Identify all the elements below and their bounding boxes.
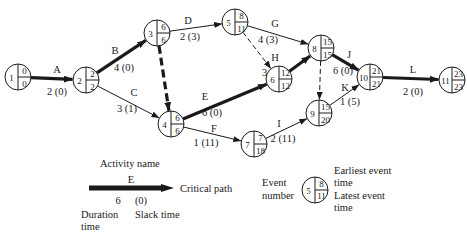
earliest-event-time: 21: [372, 66, 381, 76]
earliest-event-time: 6: [161, 22, 166, 32]
event-number: 1: [9, 73, 14, 83]
earliest-event-time: 12: [281, 68, 290, 78]
earliest-event-time: 2: [90, 69, 95, 79]
activity-duration-slack: 2 (11): [271, 133, 296, 145]
activity-name: F: [211, 123, 217, 134]
legend-critical-path-label: Critical path: [180, 183, 233, 194]
activity-name: L: [410, 64, 416, 75]
activity-h-arrow: [289, 56, 310, 71]
event-number: 3: [148, 29, 153, 39]
activity-duration-slack: 2 (0): [47, 86, 68, 98]
legend: Activity name E Critical path 6 (0) Dura…: [81, 158, 392, 232]
event-node-9: 91520: [306, 100, 332, 126]
event-node-7: 7718: [241, 131, 267, 157]
event-nodes: 1002223664665811612127718815159152010212…: [5, 9, 465, 157]
event-node-5: 5811: [222, 9, 248, 35]
latest-event-time: 6: [175, 126, 180, 136]
legend-earliest-label-2: time: [334, 177, 353, 188]
event-number: 2: [77, 76, 82, 86]
activity-name: H: [271, 52, 279, 63]
legend-sample-event-number: 5: [306, 186, 311, 196]
legend-sample-duration: 6: [115, 195, 120, 206]
event-node-8: 81515: [308, 35, 334, 61]
event-number: 8: [312, 44, 317, 54]
latest-event-time: 12: [281, 81, 290, 91]
event-node-6: 61212: [266, 66, 292, 92]
earliest-event-time: 0: [22, 66, 27, 76]
activity-duration-slack: 6 (0): [202, 107, 223, 119]
event-node-2: 222: [73, 67, 99, 93]
dummy-activity-8-9: [319, 61, 320, 100]
activity-name: D: [184, 15, 192, 26]
activity-name: G: [271, 18, 279, 29]
event-number: 11: [441, 76, 450, 86]
activity-duration-slack: 1 (11): [194, 137, 219, 149]
legend-activity-name-label: Activity name: [100, 158, 160, 169]
legend-earliest-label: Earliest event: [334, 165, 392, 176]
latest-event-time: 2: [90, 82, 95, 92]
activity-a-arrow: [31, 78, 73, 80]
activity-duration-slack: 2 (3): [180, 31, 201, 43]
latest-event-time: 21: [372, 79, 381, 89]
legend-sample-slack: (0): [135, 195, 148, 207]
earliest-event-time: 15: [321, 102, 331, 112]
event-node-10: 102121: [357, 64, 383, 90]
event-number: 10: [359, 73, 369, 83]
activity-name: J: [347, 49, 351, 60]
latest-event-time: 0: [22, 79, 27, 89]
latest-event-time: 11: [237, 24, 246, 34]
latest-event-time: 15: [323, 50, 333, 60]
legend-sample-latest: 11: [317, 191, 326, 201]
event-node-1: 100: [5, 64, 31, 90]
activity-name: I: [277, 118, 281, 129]
latest-event-time: 20: [321, 115, 331, 125]
event-number: 7: [245, 140, 250, 150]
activity-duration-slack: 1 (5): [340, 96, 361, 108]
legend-latest-label-2: time: [334, 202, 353, 213]
earliest-event-time: 15: [323, 37, 333, 47]
latest-event-time: 23: [454, 82, 464, 92]
activity-name: E: [202, 91, 208, 102]
legend-duration-label: Duration: [81, 209, 119, 220]
legend-duration-label-2: time: [81, 221, 100, 232]
activity-duration-slack: 6 (0): [333, 65, 354, 77]
earliest-event-time: 8: [239, 11, 244, 21]
legend-sample-earliest: 8: [319, 179, 324, 189]
activity-name: C: [130, 87, 137, 98]
activity-name: B: [111, 45, 118, 56]
activity-duration-slack: 2 (0): [403, 86, 424, 98]
latest-event-time: 18: [256, 146, 266, 156]
latest-event-time: 6: [161, 35, 166, 45]
legend-event-label: Event: [262, 177, 287, 188]
legend-arrowhead-icon: [161, 184, 174, 192]
dummy-activity-3-4: [159, 46, 169, 111]
activity-name: K: [341, 82, 349, 93]
activity-duration-slack: 4 (3): [258, 34, 279, 46]
earliest-event-time: 7: [258, 133, 263, 143]
event-node-11: 112323: [439, 67, 465, 93]
earliest-event-time: 23: [454, 69, 464, 79]
event-number: 9: [310, 109, 315, 119]
event-number: 5: [226, 18, 231, 28]
event-number: 4: [162, 120, 167, 130]
legend-event-label-2: number: [262, 190, 295, 201]
activity-l-arrow: [383, 77, 439, 79]
activity-name: A: [53, 64, 61, 75]
activity-duration-slack: 4 (0): [114, 62, 135, 74]
event-node-3: 366: [144, 20, 170, 46]
earliest-event-time: 6: [175, 113, 180, 123]
legend-event-node: 5 8 11: [302, 177, 328, 203]
legend-slack-label: Slack time: [135, 209, 180, 220]
legend-sample-activity: E: [128, 174, 134, 185]
activity-duration-slack: 3 (1): [117, 103, 138, 115]
event-number: 6: [270, 75, 275, 85]
legend-latest-label: Latest event: [334, 190, 385, 201]
activity-e-arrow: [183, 84, 267, 119]
network-diagram: A2 (0)B4 (0)C3 (1)D2 (3)E6 (0)F1 (11)G4 …: [0, 0, 467, 236]
event-node-4: 466: [158, 111, 184, 137]
